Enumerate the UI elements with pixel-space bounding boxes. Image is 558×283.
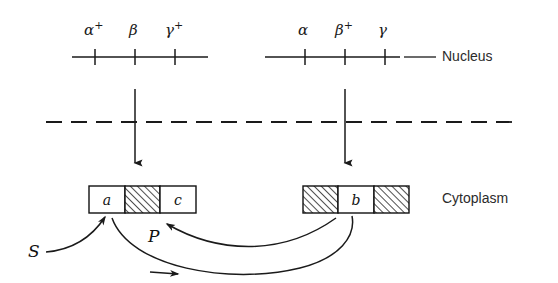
right-segment-3-hatched (374, 186, 409, 213)
curve-precursor-to-c (167, 218, 336, 247)
segment-letter-b: b (338, 193, 374, 207)
segment-letter-c: c (160, 193, 196, 207)
curve-lower-sweep-arrowhead (150, 272, 178, 274)
figure-canvas: α+ β γ+ α β+ γ Nucleus Cytoplasm a c b S… (0, 0, 558, 283)
diagram-vector-layer (0, 0, 558, 283)
curve-substrate-to-a (46, 217, 105, 252)
left-segment-2-hatched (125, 186, 160, 213)
segment-letter-a: a (89, 193, 125, 207)
chromosome-right (265, 49, 400, 65)
right-segment-1-hatched (303, 186, 338, 213)
chromosome-left (72, 49, 208, 65)
